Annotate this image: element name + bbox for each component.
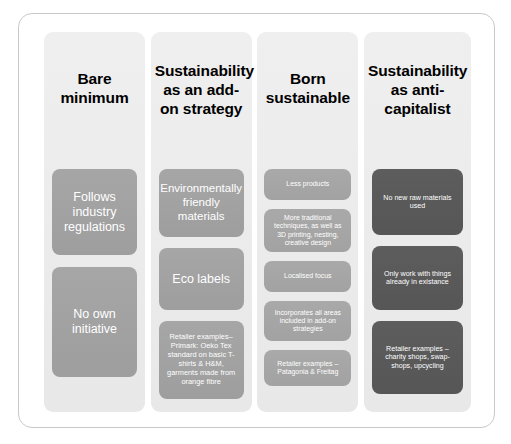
box-item: Only work with things already in existan… bbox=[372, 246, 463, 310]
box-list-add-on-strategy: Environmentally friendly materials Eco l… bbox=[151, 169, 252, 399]
box-item: Retailer examples – Patagonia & Freitag bbox=[264, 350, 351, 386]
box-label: Less products bbox=[286, 180, 329, 188]
column-header-born-sustainable: Born sustainable bbox=[257, 70, 358, 108]
box-item: Less products bbox=[264, 169, 351, 200]
box-item: No new raw materials used bbox=[372, 169, 463, 235]
box-item: Incorporates all areas included in add-o… bbox=[264, 301, 351, 341]
box-label: Localised focus bbox=[284, 272, 332, 280]
diagram-frame: Bare minimum Follows industry regulation… bbox=[18, 13, 495, 428]
column-header-anti-capitalist: Sustainability as anti-capitalist bbox=[364, 62, 471, 119]
box-list-born-sustainable: Less products More traditional technique… bbox=[257, 169, 358, 386]
box-item: Environmentally friendly materials bbox=[159, 169, 244, 237]
box-label: Retailer examples – charity shops, swap-… bbox=[378, 345, 457, 371]
column-container: Bare minimum Follows industry regulation… bbox=[44, 32, 471, 412]
box-label: No own initiative bbox=[58, 307, 131, 337]
box-label: More traditional techniques, as well as … bbox=[270, 214, 345, 247]
box-list-anti-capitalist: No new raw materials used Only work with… bbox=[364, 169, 471, 394]
box-item: No own initiative bbox=[52, 267, 137, 377]
box-label: Follows industry regulations bbox=[58, 190, 131, 235]
box-label: Environmentally friendly materials bbox=[160, 182, 242, 223]
sustainability-strategy-diagram: Bare minimum Follows industry regulation… bbox=[0, 0, 511, 444]
box-list-bare-minimum: Follows industry regulations No own init… bbox=[44, 169, 145, 377]
box-label: Retailer examples – Patagonia & Freitag bbox=[270, 360, 345, 377]
column-add-on-strategy: Sustainability as an add-on strategy Env… bbox=[151, 32, 252, 412]
box-label: Only work with things already in existan… bbox=[378, 270, 457, 287]
box-item: Follows industry regulations bbox=[52, 169, 137, 255]
box-item: More traditional techniques, as well as … bbox=[264, 209, 351, 252]
box-label: Incorporates all areas included in add-o… bbox=[270, 309, 345, 334]
column-born-sustainable: Born sustainable Less products More trad… bbox=[257, 32, 358, 412]
column-anti-capitalist: Sustainability as anti-capitalist No new… bbox=[364, 32, 471, 412]
box-label: Retailer examples– Primark: Oeko Tex sta… bbox=[165, 333, 238, 386]
box-item: Localised focus bbox=[264, 261, 351, 292]
box-label: No new raw materials used bbox=[378, 194, 457, 211]
box-label: Eco labels bbox=[172, 272, 230, 287]
column-header-bare-minimum: Bare minimum bbox=[44, 70, 145, 108]
column-bare-minimum: Bare minimum Follows industry regulation… bbox=[44, 32, 145, 412]
box-item: Retailer examples – charity shops, swap-… bbox=[372, 321, 463, 394]
box-item: Eco labels bbox=[159, 248, 244, 310]
column-header-add-on-strategy: Sustainability as an add-on strategy bbox=[151, 62, 252, 119]
box-item: Retailer examples– Primark: Oeko Tex sta… bbox=[159, 321, 244, 399]
